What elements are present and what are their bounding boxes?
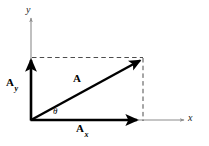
- component-ax-subscript: x: [84, 130, 88, 139]
- resultant-vector-label: A: [73, 73, 81, 84]
- x-axis-label: x: [188, 113, 192, 123]
- component-ax-label: Ax: [76, 123, 88, 137]
- component-ay-subscript: y: [14, 84, 18, 93]
- component-ay-label: Ay: [6, 77, 18, 91]
- component-ay-base: A: [6, 76, 14, 88]
- resultant-vector-a: [31, 61, 140, 121]
- y-axis-label: y: [26, 5, 30, 15]
- angle-theta-label: θ: [53, 107, 57, 116]
- component-ax-base: A: [76, 122, 84, 134]
- vector-components-figure: y x A Ay Ax θ: [0, 0, 209, 146]
- figure-canvas: [0, 0, 209, 146]
